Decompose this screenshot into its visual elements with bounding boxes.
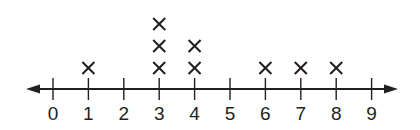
x-mark-icon: [82, 62, 94, 74]
x-mark-icon: [189, 62, 201, 74]
number-line-axis: [26, 85, 398, 94]
tick-label: 0: [48, 103, 59, 124]
tick-label: 8: [331, 103, 342, 124]
tick-label: 5: [225, 103, 236, 124]
tick-label: 2: [119, 103, 130, 124]
x-mark-icon: [153, 40, 165, 52]
x-mark-icon: [295, 62, 307, 74]
right-arrow-icon: [384, 85, 398, 94]
x-mark-icon: [153, 18, 165, 30]
x-mark-icon: [259, 62, 271, 74]
tick-labels: 0123456789: [48, 103, 377, 124]
x-mark-icon: [189, 40, 201, 52]
left-arrow-icon: [26, 85, 40, 94]
line-plot: 0123456789: [0, 0, 420, 130]
x-marks: [82, 18, 342, 74]
tick-label: 1: [83, 103, 94, 124]
tick-label: 9: [366, 103, 377, 124]
tick-label: 6: [260, 103, 271, 124]
tick-label: 3: [154, 103, 165, 124]
tick-label: 7: [296, 103, 307, 124]
x-mark-icon: [330, 62, 342, 74]
tick-label: 4: [189, 103, 200, 124]
x-mark-icon: [153, 62, 165, 74]
